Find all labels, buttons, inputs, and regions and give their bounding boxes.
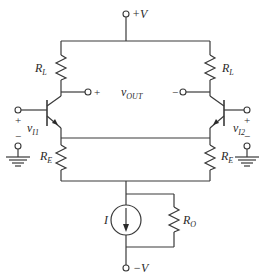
negative-supply-terminal	[123, 265, 129, 271]
left-load-resistor: RL	[34, 41, 66, 92]
left-ground-terminal	[15, 143, 21, 149]
current-source-label: I	[103, 213, 109, 227]
right-ground-terminal	[244, 143, 250, 149]
current-direction-arrow-icon	[123, 224, 129, 232]
right-input-minus-sign: −	[244, 130, 250, 142]
right-emitter-resistor-label: RE	[220, 149, 233, 165]
left-input-label: vI1	[27, 121, 39, 137]
positive-supply-terminal	[123, 11, 129, 17]
positive-supply-label: +V	[132, 7, 149, 21]
output-plus-sign: +	[94, 86, 100, 98]
output-resistance-resistor: RO	[169, 194, 196, 247]
output-minus-sign: −	[172, 86, 178, 98]
left-input-minus-sign: −	[15, 130, 21, 142]
right-input-plus-sign: +	[244, 114, 250, 126]
left-input-source: + vI1 −	[6, 114, 39, 166]
left-load-resistor-label: RL	[34, 61, 47, 77]
right-emitter-arrow-icon	[213, 119, 219, 125]
right-load-resistor: RL	[205, 41, 234, 92]
positive-supply: +V	[123, 7, 149, 41]
right-input-terminal	[244, 107, 250, 113]
output-voltage-label: vOUT	[121, 85, 143, 101]
circuit-diagram: +V RL RL + vOUT −	[0, 0, 270, 280]
right-load-resistor-label: RL	[221, 61, 234, 77]
right-ground-icon	[235, 157, 259, 166]
left-emitter-arrow-icon	[52, 119, 58, 125]
right-input-source: + vI2 −	[233, 114, 259, 166]
output-terminals: + vOUT −	[61, 85, 210, 101]
output-minus-terminal	[180, 89, 186, 95]
negative-supply-label: −V	[133, 261, 150, 275]
left-ground-icon	[6, 157, 30, 166]
right-emitter-resistor: RE	[205, 138, 233, 181]
negative-supply: −V	[123, 261, 150, 275]
output-resistance-label: RO	[182, 213, 196, 229]
left-emitter-resistor-label: RE	[39, 149, 52, 165]
left-input-plus-sign: +	[15, 114, 21, 126]
tail-current-source: I	[103, 181, 174, 265]
left-input-terminal	[15, 107, 21, 113]
left-emitter-resistor: RE	[39, 138, 66, 181]
output-plus-terminal	[85, 89, 91, 95]
